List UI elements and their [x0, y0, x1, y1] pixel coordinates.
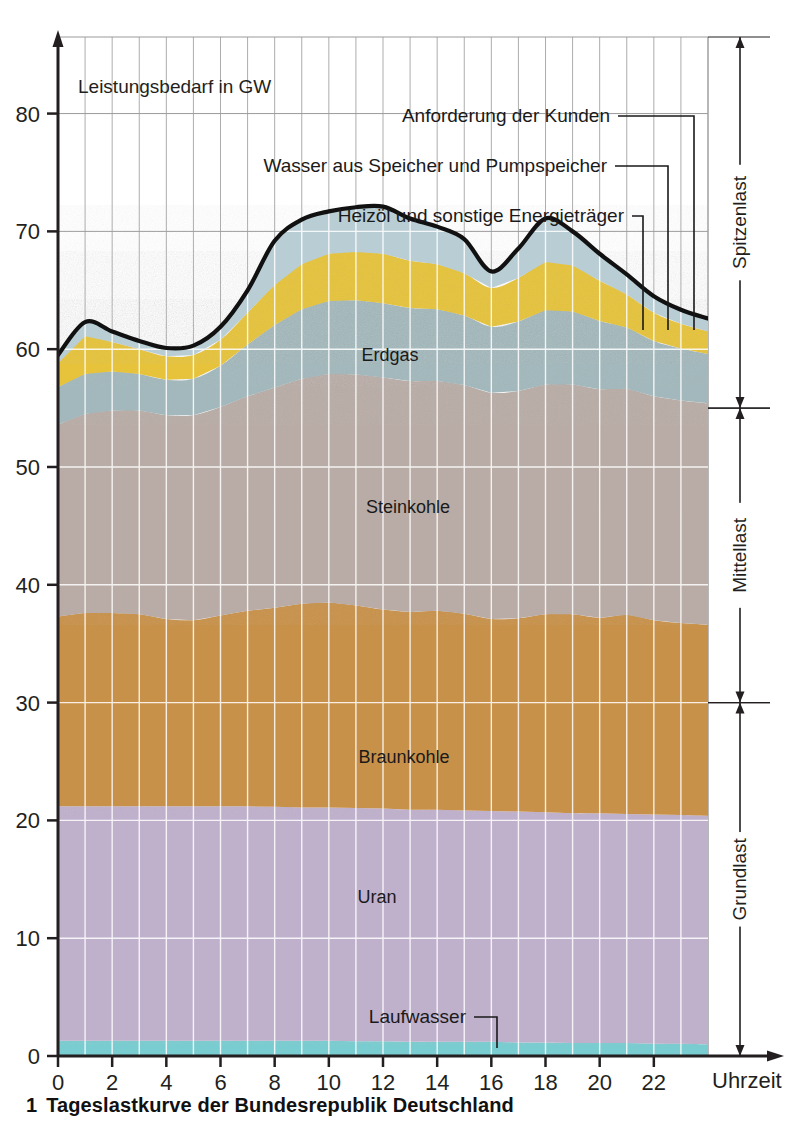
caption-text: Tageslastkurve der Bundesrepublik Deutsc…	[46, 1094, 514, 1116]
x-tick-label: 2	[106, 1070, 118, 1095]
callout-label-2: Heizöl und sonstige Energieträger	[338, 205, 625, 226]
bracket-group: SpitzenlastMittellastGrundlast	[708, 37, 770, 1056]
y-tick-label: 70	[16, 219, 40, 244]
y-tick-label: 50	[16, 455, 40, 480]
chart-area-stacked: 01020304050607080 0246810121416182022 Le…	[0, 0, 807, 1136]
x-tick-label: 22	[642, 1070, 666, 1095]
x-tick-label: 4	[160, 1070, 172, 1095]
figure-caption: 1Tageslastkurve der Bundesrepublik Deuts…	[26, 1094, 514, 1117]
series-label-erdgas: Erdgas	[361, 345, 418, 365]
x-tick-label: 10	[317, 1070, 341, 1095]
caption-number: 1	[26, 1094, 37, 1116]
figure-tageslastkurve: 01020304050607080 0246810121416182022 Le…	[0, 0, 807, 1136]
y-tick-label: 80	[16, 102, 40, 127]
y-tick-label: 60	[16, 337, 40, 362]
bracket-label-spitzenlast: Spitzenlast	[729, 175, 750, 269]
x-tick-group: 0246810121416182022	[52, 1056, 666, 1095]
y-tick-label: 10	[16, 926, 40, 951]
x-tick-label: 6	[214, 1070, 226, 1095]
x-tick-label: 0	[52, 1070, 64, 1095]
bracket-label-mittellast: Mittellast	[729, 517, 750, 593]
callout-label-1: Wasser aus Speicher und Pumpspeicher	[263, 155, 607, 176]
y-tick-label: 0	[28, 1044, 40, 1069]
callout-label-3: Laufwasser	[369, 1006, 467, 1027]
y-tick-label: 40	[16, 573, 40, 598]
series-label-uran: Uran	[357, 887, 396, 907]
y-axis-title: Leistungsbedarf in GW	[78, 76, 271, 97]
series-label-braunkohle: Braunkohle	[358, 747, 449, 767]
x-tick-label: 16	[479, 1070, 503, 1095]
y-tick-label: 20	[16, 808, 40, 833]
x-tick-label: 8	[269, 1070, 281, 1095]
x-tick-label: 12	[371, 1070, 395, 1095]
x-tick-label: 14	[425, 1070, 449, 1095]
y-tick-group: 01020304050607080	[16, 102, 58, 1069]
series-label-steinkohle: Steinkohle	[366, 497, 450, 517]
y-tick-label: 30	[16, 691, 40, 716]
x-tick-label: 20	[587, 1070, 611, 1095]
bracket-label-grundlast: Grundlast	[729, 837, 750, 920]
callout-label-0: Anforderung der Kunden	[402, 105, 610, 126]
x-axis-title: Uhrzeit	[712, 1068, 782, 1093]
x-tick-label: 18	[533, 1070, 557, 1095]
